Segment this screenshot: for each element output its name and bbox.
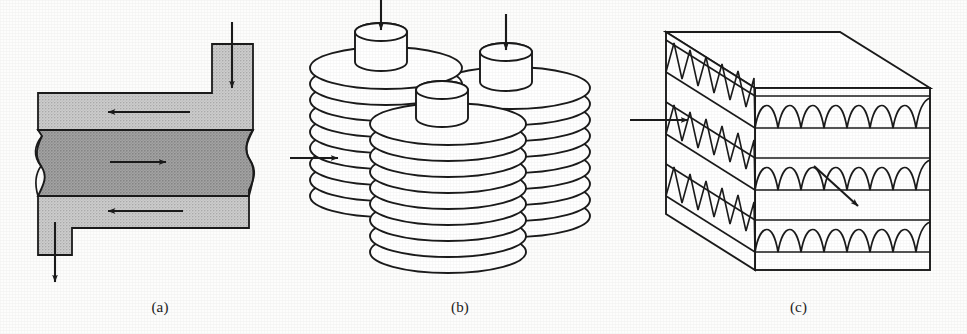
disc-stack-left-hub — [355, 23, 407, 71]
upper-flow-channel — [38, 44, 253, 130]
panel-a-drawing — [0, 0, 320, 300]
panel-a-plate-fin-channel: (a) — [0, 0, 320, 334]
panel-c-drawing — [630, 0, 967, 300]
panel-a-caption: (a) — [0, 299, 320, 316]
panel-c-caption: (c) — [630, 299, 967, 316]
disc-stack-front — [370, 103, 526, 273]
figure-container: (a) — [0, 0, 967, 334]
panel-b-stacked-discs: (b) — [290, 0, 630, 334]
panel-c-corrugated-fin-block: (c) — [630, 0, 967, 334]
panel-b-drawing — [290, 0, 630, 300]
lower-flow-channel — [38, 196, 249, 255]
panel-b-caption: (b) — [290, 299, 630, 316]
disc-stack-front-hub — [416, 81, 468, 127]
disc-stack-right-hub — [480, 43, 532, 91]
